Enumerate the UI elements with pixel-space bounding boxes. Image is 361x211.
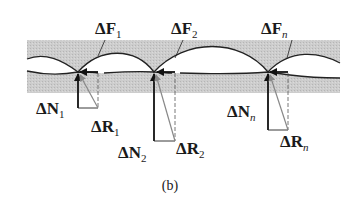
label-delta-f2: ΔF2 xyxy=(171,19,198,40)
label-delta-n2: ΔN2 xyxy=(118,143,146,164)
friction-contact-diagram: ΔF1 ΔF2 ΔFn ΔN1 ΔN2 ΔNn ΔR1 ΔR2 ΔRn (b) xyxy=(0,0,361,211)
label-delta-nn: ΔNn xyxy=(227,102,256,123)
label-delta-r2: ΔR2 xyxy=(176,139,204,160)
label-delta-rn: ΔRn xyxy=(280,132,309,153)
label-delta-fn: ΔFn xyxy=(261,19,288,40)
figure-caption: (b) xyxy=(162,178,179,194)
label-delta-f1: ΔF1 xyxy=(95,19,122,40)
label-delta-n1: ΔN1 xyxy=(36,99,64,120)
label-delta-r1: ΔR1 xyxy=(91,117,119,138)
